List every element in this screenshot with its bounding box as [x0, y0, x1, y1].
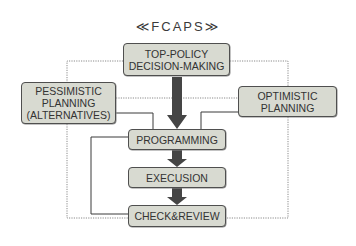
node-top-policy-decision-making: TOP-POLICY DECISION-MAKING	[123, 43, 230, 76]
node-pessimistic-planning: PESSIMISTIC PLANNING (ALTERNATIVES)	[21, 82, 116, 124]
arrow-execusion-to-check-review	[167, 188, 187, 205]
edge-pessimistic-to-programming	[116, 113, 153, 129]
edge-programming-to-check-review	[91, 137, 128, 214]
edge-optimistic-to-check-review	[226, 117, 288, 218]
edge-top-policy-to-pessimistic	[67, 61, 123, 82]
edge-optimistic-to-programming	[201, 112, 238, 129]
edge-pessimistic-to-check-review	[67, 124, 128, 218]
arrow-top-policy-to-programming	[167, 77, 187, 129]
node-execusion: EXECUSION	[128, 167, 226, 188]
edge-top-policy-to-optimistic	[230, 61, 288, 86]
arrow-programming-to-execusion	[167, 150, 187, 167]
node-check-review: CHECK&REVIEW	[128, 205, 226, 227]
node-programming: PROGRAMMING	[128, 129, 226, 150]
node-optimistic-planning: OPTIMISTIC PLANNING	[238, 86, 337, 117]
